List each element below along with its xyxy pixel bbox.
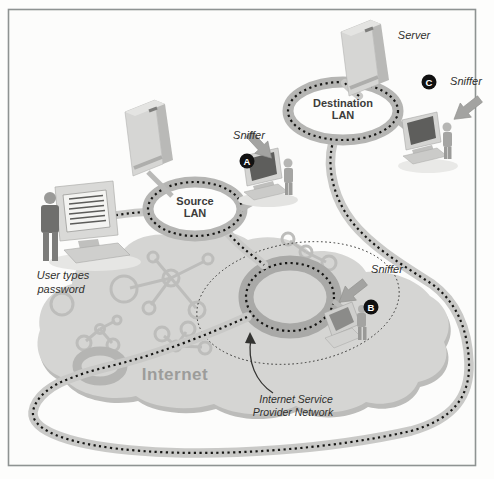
- sniffer-c-label: Sniffer: [450, 75, 483, 87]
- badge-c-letter: C: [426, 77, 433, 88]
- user-caption-line2: password: [36, 283, 85, 295]
- source-lan-label-line1: Source: [176, 195, 213, 207]
- badge-a-letter: A: [244, 156, 251, 167]
- badge-b-letter: B: [368, 302, 375, 313]
- workstation-base: [398, 159, 458, 173]
- isp-label-line1: Internet Service: [259, 393, 333, 405]
- sniffer-b-label: Sniffer: [371, 263, 404, 275]
- destination-lan-label-line1: Destination: [313, 97, 373, 109]
- isp-label-line2: Provider Network: [253, 406, 334, 418]
- figure-canvas: A B C Source LAN Destination LAN Interne…: [0, 0, 494, 479]
- internet-label: Internet: [142, 365, 208, 384]
- source-lan-label-line2: LAN: [184, 207, 207, 219]
- network-sniffing-diagram: A B C Source LAN Destination LAN Interne…: [0, 0, 494, 479]
- user-caption-line1: User types: [37, 269, 90, 281]
- destination-lan-label-line2: LAN: [332, 109, 355, 121]
- server-label: Server: [398, 29, 432, 41]
- sniffer-a-label: Sniffer: [233, 129, 266, 141]
